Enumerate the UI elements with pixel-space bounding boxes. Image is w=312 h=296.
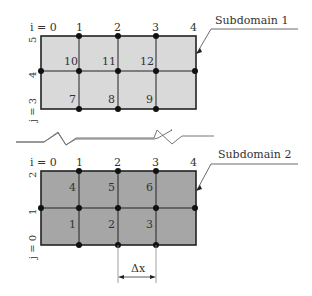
- cell-number: 11: [102, 55, 116, 68]
- i-label: 4: [190, 156, 197, 169]
- j-label: 2: [27, 172, 38, 178]
- cell-number: 1: [69, 218, 76, 231]
- j-label: 1: [27, 209, 38, 215]
- i-label: 3: [152, 21, 159, 34]
- i-label: 4: [190, 21, 197, 34]
- arrow-left-icon: [118, 275, 124, 279]
- leader-line: [197, 29, 298, 53]
- arrow-right-icon: [150, 275, 156, 279]
- delta-x-label: Δx: [131, 262, 146, 275]
- cell-number: 8: [108, 93, 115, 106]
- cell-number: 2: [108, 218, 115, 231]
- diagram-svg: i = 0 1 2 3 4 5 4 j = 3 10 11 12 7 8 9 S…: [0, 0, 312, 296]
- i-label: 2: [114, 21, 121, 34]
- subdomain-1: i = 0 1 2 3 4 5 4 j = 3 10 11 12 7 8 9 S…: [27, 14, 298, 123]
- i-label: i = 0: [30, 21, 57, 34]
- delta-x-dimension: Δx: [118, 245, 156, 283]
- cell-number: 6: [146, 181, 153, 194]
- subdomain-2-label: Subdomain 2: [218, 148, 291, 161]
- subdomain-1-label: Subdomain 1: [215, 14, 288, 27]
- i-label: 3: [152, 156, 159, 169]
- i-label: 1: [76, 21, 83, 34]
- j-label: 4: [27, 72, 38, 78]
- cell-number: 4: [69, 181, 76, 194]
- domain-decomposition-diagram: i = 0 1 2 3 4 5 4 j = 3 10 11 12 7 8 9 S…: [0, 0, 312, 296]
- break-line: [16, 130, 214, 145]
- i-label: 1: [76, 156, 83, 169]
- cell-number: 3: [146, 218, 153, 231]
- cell-number: 10: [64, 55, 78, 68]
- i-label: i = 0: [30, 156, 57, 169]
- j-label: j = 3: [27, 98, 38, 123]
- j-label: 5: [27, 37, 38, 43]
- cell-number: 5: [108, 181, 115, 194]
- cell-number: 9: [146, 93, 153, 106]
- cell-number: 12: [140, 55, 154, 68]
- leader-line: [197, 164, 298, 190]
- i-label: 2: [114, 156, 121, 169]
- cell-number: 7: [69, 93, 76, 106]
- subdomain-2: i = 0 1 2 3 4 2 1 j = 0 4 5 6 1 2 3 Subd…: [27, 148, 298, 260]
- j-label: j = 0: [27, 235, 38, 260]
